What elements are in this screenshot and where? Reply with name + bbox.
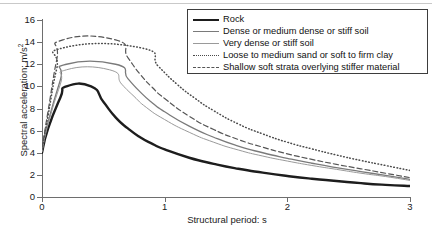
legend-line-very-dense-icon (193, 38, 219, 48)
x-tick-label: 0 (30, 201, 54, 212)
legend-item-shallow: Shallow soft strata overlying stiffer ma… (193, 61, 423, 73)
x-tick-label: 2 (275, 201, 299, 212)
series-line-very-dense-or-stiff-soil (42, 67, 410, 181)
legend-line-shallow-icon (193, 62, 219, 72)
y-tick-label: 4 (0, 147, 35, 158)
x-axis-title: Structural period: s (42, 214, 412, 225)
y-tick-label: 2 (0, 169, 35, 180)
top-divider (0, 3, 432, 4)
legend-label-very-dense: Very dense or stiff soil (223, 37, 314, 49)
y-tick-label: 6 (0, 125, 35, 136)
legend-line-rock-icon (193, 14, 219, 24)
legend-line-loose-icon (193, 50, 219, 60)
x-tick-label: 1 (153, 201, 177, 212)
legend-label-shallow: Shallow soft strata overlying stiffer ma… (223, 61, 400, 73)
y-tick-label: 14 (0, 36, 35, 47)
chart-figure: Spectral acceleration: m/s2 Structural p… (0, 0, 432, 232)
y-tick-label: 12 (0, 58, 35, 69)
series-line-dense-or-medium-dense-or-stiff-soil (42, 61, 410, 179)
y-tick-label: 16 (0, 14, 35, 25)
x-axis-line (42, 197, 411, 198)
y-tick-label: 8 (0, 103, 35, 114)
legend-label-loose: Loose to medium sand or soft to firm cla… (223, 49, 393, 61)
legend-box: Rock Dense or medium dense or stiff soil… (187, 9, 428, 74)
legend-item-loose: Loose to medium sand or soft to firm cla… (193, 49, 423, 61)
y-tick-label: 10 (0, 80, 35, 91)
legend-item-rock: Rock (193, 13, 423, 25)
x-tick-label: 3 (398, 201, 422, 212)
legend-label-rock: Rock (223, 13, 244, 25)
legend-label-dense: Dense or medium dense or stiff soil (223, 25, 369, 37)
legend-line-dense-icon (193, 26, 219, 36)
legend-item-very-dense: Very dense or stiff soil (193, 37, 423, 49)
legend-item-dense: Dense or medium dense or stiff soil (193, 25, 423, 37)
